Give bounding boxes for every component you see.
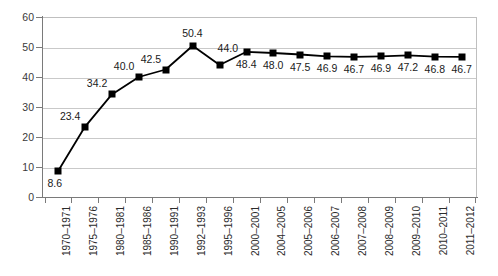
data-point-label: 23.4: [60, 111, 80, 121]
x-tick-mark: [98, 197, 99, 203]
data-point-marker: [216, 62, 223, 69]
data-point-marker: [162, 66, 169, 73]
x-tick-label: 1985–1986: [143, 206, 153, 256]
y-tick-label: 40: [0, 72, 34, 82]
x-tick-mark: [179, 197, 180, 203]
x-tick-label: 1992–1993: [197, 206, 207, 256]
x-tick-mark: [152, 197, 153, 203]
data-point-marker: [243, 48, 250, 55]
x-tick-label: 2009–2010: [412, 206, 422, 256]
data-point-label: 48.0: [263, 60, 283, 70]
x-tick-label: 2011–2012: [466, 206, 476, 255]
data-point-marker: [351, 53, 358, 60]
data-point-marker: [459, 53, 466, 60]
y-tick-label: 60: [0, 12, 34, 22]
y-tick-mark: [36, 47, 42, 48]
y-tick-mark: [36, 167, 42, 168]
x-tick-mark: [341, 197, 342, 203]
x-tick-label: 2000–2001: [251, 206, 261, 256]
x-tick-label: 2010–2011: [439, 206, 449, 255]
data-point-label: 46.7: [344, 64, 364, 74]
x-tick-label: 2004–2005: [277, 206, 287, 256]
data-point-marker: [81, 123, 88, 130]
x-tick-mark: [368, 197, 369, 203]
y-tick-label: 30: [0, 102, 34, 112]
x-tick-mark: [287, 197, 288, 203]
x-tick-label: 1980–1981: [116, 206, 126, 256]
y-tick-label: 50: [0, 42, 34, 52]
gridline: [42, 108, 476, 109]
data-point-label: 40.0: [114, 61, 134, 71]
x-tick-mark: [260, 197, 261, 203]
data-point-marker: [297, 51, 304, 58]
x-tick-label: 1970–1971: [62, 206, 72, 256]
y-tick-mark: [36, 107, 42, 108]
data-point-label: 46.8: [425, 64, 445, 74]
x-tick-label: 2008–2009: [385, 206, 395, 256]
data-point-label: 34.2: [87, 78, 107, 88]
data-point-label: 46.9: [317, 63, 337, 73]
y-tick-mark: [36, 17, 42, 18]
x-tick-label: 2007–2008: [358, 206, 368, 256]
data-point-marker: [108, 91, 115, 98]
data-point-label: 8.6: [48, 178, 63, 188]
data-point-label: 47.2: [398, 62, 418, 72]
x-tick-label: 2006–2007: [331, 206, 341, 256]
data-point-marker: [405, 52, 412, 59]
data-point-label: 42.5: [141, 54, 161, 64]
line-chart: 0102030405060 1970–19711975–19761980–198…: [0, 0, 498, 276]
x-tick-mark: [71, 197, 72, 203]
data-point-label: 47.5: [290, 62, 310, 72]
x-tick-mark: [206, 197, 207, 203]
data-point-label: 48.4: [236, 59, 256, 69]
x-tick-mark: [45, 197, 46, 203]
x-tick-mark: [125, 197, 126, 203]
x-tick-mark: [395, 197, 396, 203]
data-point-marker: [270, 50, 277, 57]
data-point-label: 46.7: [452, 64, 472, 74]
x-tick-label: 2005–2006: [304, 206, 314, 256]
x-tick-label: 1995–1996: [224, 206, 234, 256]
y-axis-line: [42, 16, 43, 198]
x-tick-mark: [314, 197, 315, 203]
data-point-label: 50.4: [182, 28, 202, 38]
x-tick-mark: [475, 197, 476, 203]
data-point-marker: [135, 74, 142, 81]
y-tick-mark: [36, 137, 42, 138]
data-point-marker: [432, 53, 439, 60]
y-tick-label: 20: [0, 132, 34, 142]
plot-area: [42, 17, 477, 197]
gridline: [42, 168, 476, 169]
x-tick-mark: [449, 197, 450, 203]
data-point-marker: [324, 53, 331, 60]
data-point-label: 44.0: [218, 43, 238, 53]
data-point-marker: [189, 42, 196, 49]
data-point-marker: [378, 53, 385, 60]
gridline: [42, 48, 476, 49]
x-tick-mark: [233, 197, 234, 203]
x-tick-label: 1990–1991: [170, 206, 180, 256]
data-point-label: 46.9: [371, 63, 391, 73]
x-tick-label: 1975–1976: [89, 206, 99, 256]
x-tick-mark: [422, 197, 423, 203]
y-tick-mark: [36, 77, 42, 78]
y-tick-mark: [36, 197, 42, 198]
y-tick-label: 0: [0, 192, 34, 202]
y-tick-label: 10: [0, 162, 34, 172]
gridline: [42, 138, 476, 139]
data-point-marker: [55, 168, 62, 175]
